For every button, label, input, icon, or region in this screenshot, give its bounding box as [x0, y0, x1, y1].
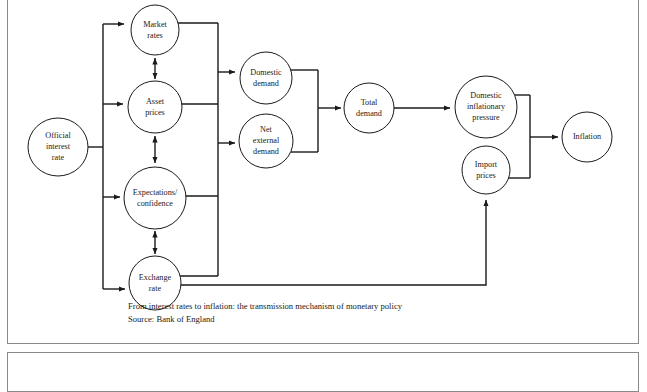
node-label-import-prices-2: prices — [476, 171, 496, 180]
node-label-official-interest-rate-3: rate — [52, 153, 65, 162]
node-label-asset-prices-2: prices — [145, 108, 165, 117]
node-label-inflationary-pressure-3: pressure — [472, 113, 500, 122]
node-label-exchange-rate-1: Exchange — [139, 273, 172, 282]
node-label-inflationary-pressure-1: Domestic — [470, 91, 502, 100]
node-label-domestic-demand-2: demand — [253, 79, 279, 88]
node-label-inflationary-pressure-2: inflationary — [467, 102, 506, 111]
node-label-net-external-demand-3: demand — [253, 147, 279, 156]
node-label-exchange-rate-2: rate — [149, 284, 162, 293]
node-label-expectations-2: confidence — [137, 199, 173, 208]
figure-caption: From interest rates to inflation: the tr… — [128, 300, 568, 313]
node-asset-prices[interactable]: Asset prices — [128, 81, 182, 133]
node-market-rates[interactable]: Market rates — [131, 5, 179, 55]
node-label-net-external-demand-2: external — [253, 136, 280, 145]
node-domestic-demand[interactable]: Domestic demand — [240, 52, 292, 104]
node-layer: Official interest rate Market rates Asse… — [28, 5, 612, 310]
node-import-prices[interactable]: Import prices — [462, 146, 510, 194]
node-label-official-interest-rate-1: Official — [45, 131, 71, 140]
node-label-inflation-1: Inflation — [573, 132, 601, 141]
node-label-domestic-demand-1: Domestic — [250, 68, 282, 77]
node-inflation[interactable]: Inflation — [562, 112, 612, 162]
node-label-expectations-1: Expectations/ — [133, 188, 178, 197]
node-label-import-prices-1: Import — [475, 160, 498, 169]
node-label-net-external-demand-1: Net — [260, 125, 273, 134]
node-domestic-inflationary-pressure[interactable]: Domestic inflationary pressure — [455, 76, 517, 138]
node-label-market-rates-1: Market — [143, 20, 167, 29]
figure-caption-block: From interest rates to inflation: the tr… — [128, 300, 568, 325]
node-net-external-demand[interactable]: Net external demand — [239, 114, 293, 168]
figure-source: Source: Bank of England — [128, 313, 568, 326]
node-label-total-demand-2: demand — [356, 109, 382, 118]
node-label-asset-prices-1: Asset — [146, 97, 165, 106]
node-total-demand[interactable]: Total demand — [344, 83, 394, 133]
node-label-market-rates-2: rates — [147, 31, 162, 40]
edge-exchange-rate-to-import-prices — [180, 200, 486, 285]
node-label-total-demand-1: Total — [361, 98, 378, 107]
node-official-interest-rate[interactable]: Official interest rate — [28, 118, 88, 176]
node-expectations-confidence[interactable]: Expectations/ confidence — [124, 167, 186, 229]
node-label-official-interest-rate-2: interest — [46, 142, 71, 151]
